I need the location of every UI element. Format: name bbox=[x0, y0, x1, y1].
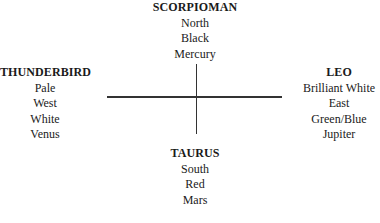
node-attribute: Brilliant White bbox=[298, 81, 380, 97]
node-direction: East bbox=[298, 96, 380, 112]
node-taurus: TAURUS South Red Mars bbox=[130, 146, 260, 208]
cross-vertical-line bbox=[196, 64, 198, 134]
node-color: Red bbox=[130, 177, 260, 193]
node-scorpioman: SCORPIOMAN North Black Mercury bbox=[130, 0, 260, 62]
node-planet: Venus bbox=[0, 127, 90, 143]
node-planet: Mars bbox=[130, 193, 260, 209]
node-direction: West bbox=[0, 96, 90, 112]
node-thunderbird: THUNDERBIRD Pale West White Venus bbox=[0, 65, 90, 143]
node-color: White bbox=[0, 112, 90, 128]
node-title: THUNDERBIRD bbox=[0, 65, 90, 81]
node-title: SCORPIOMAN bbox=[130, 0, 260, 16]
node-color: Black bbox=[130, 31, 260, 47]
node-planet: Jupiter bbox=[298, 127, 380, 143]
node-direction: South bbox=[130, 162, 260, 178]
node-title: TAURUS bbox=[130, 146, 260, 162]
node-title: LEO bbox=[298, 65, 380, 81]
cross-horizontal-line bbox=[107, 96, 282, 98]
node-leo: LEO Brilliant White East Green/Blue Jupi… bbox=[298, 65, 380, 143]
node-planet: Mercury bbox=[130, 47, 260, 63]
node-color: Green/Blue bbox=[298, 112, 380, 128]
node-attribute: Pale bbox=[0, 81, 90, 97]
node-direction: North bbox=[130, 16, 260, 32]
